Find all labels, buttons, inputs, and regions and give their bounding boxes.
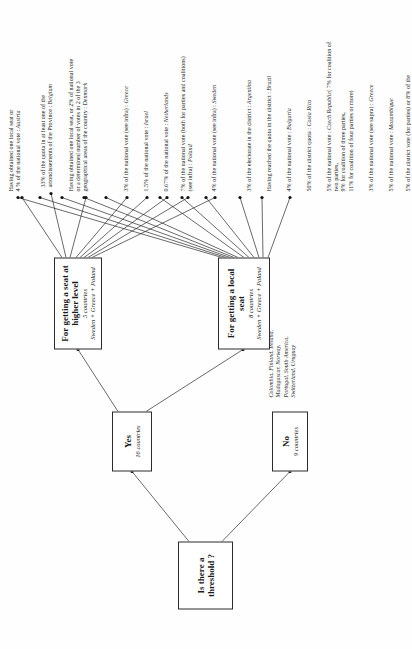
leaf-greece-higher: 3% of the national vote (see infra) : Gr… [123,41,130,191]
leaf-belgium: 33% of the quota in at least one of the … [40,37,54,187]
leaf-argentina: 3% of the electorate in the district : A… [246,41,253,191]
category-higher-count: 5 countries [81,288,89,317]
branch-yes-label: Yes [123,435,133,448]
country-sweden-higher: Sweden [211,84,217,103]
category-box-local-seat[interactable]: For getting a local seat 8 countries Swe… [218,257,270,349]
country-austria: Austria [15,110,21,128]
root-question-box[interactable]: Is there a threshold ? [178,541,233,609]
leaf-israel: 1.5% of the national vote : Israel [143,41,150,191]
leaf-poland-higher: 7% of the national vote (both for partie… [180,41,194,191]
leaf-brazil: Having reached the quota in the district… [266,41,273,191]
leaf-sweden-higher: 4% of the national vote (see infra) : Sw… [211,41,218,191]
root-question-label: Is there a threshold ? [196,545,216,605]
country-netherlands: Netherlands [163,92,169,122]
branch-no-count: 9 countries [292,426,300,455]
leaf-mozambique: 5% of the national vote : Mozambique [388,41,395,191]
country-greece-local: Greece [368,84,374,101]
leaf-costa-rica: 50% of the district quota : Costa Rica [306,41,313,191]
country-brazil: Brazil [266,75,272,90]
country-poland-higher: Poland [187,144,193,162]
country-argentina: Argentina [246,80,252,104]
branch-yes-count: 16 countries [134,425,142,457]
category-box-higher-level[interactable]: For getting a seat at higher level 5 cou… [54,257,102,349]
leaf-denmark: Having obtained one local seat, or 2% of… [68,41,90,191]
category-local-extra: Sweden + Greece + Poland [255,267,263,339]
country-bulgaria: Bulgaria [286,108,292,130]
leaf-bulgaria: 4% of the national vote : Bulgaria [286,41,293,191]
country-czech-republic: Czech Republic [326,91,332,129]
leaf-czech-republic: 5% of the national vote : Czech Republic… [326,41,355,191]
branch-box-no[interactable]: No 9 countries [272,411,308,471]
category-higher-extra: Sweden + Greece + Poland [89,267,97,339]
leaf-greece-local: 3% of the national vote (see supra) : Gr… [368,41,375,191]
leaf-netherlands: 0.67% of the national vote : Netherlands [163,41,170,191]
diagram-canvas: Is there a threshold ? Yes 16 countries … [0,0,412,649]
category-local-count: 8 countries [247,288,255,317]
category-higher-title: For getting a seat at higher level [60,261,80,345]
leaf-austria: Having obtained one local seat or 4 % of… [8,41,22,191]
branch-box-yes[interactable]: Yes 16 countries [112,411,152,471]
country-belgium: Belgium [47,84,53,104]
country-greece-higher: Greece [123,86,129,103]
no-countries-list: Colombia, Finland, Ireland, Madagascar, … [268,287,298,397]
country-costa-rica: Costa Rica [306,99,312,126]
country-israel: Israel [143,111,149,125]
category-local-title: For getting a local seat [226,261,246,345]
country-mozambique: Mozambique [388,98,394,129]
branch-no-label: No [281,436,291,447]
leaf-poland-local: 5% of the district vote (for parties) or… [405,41,412,191]
country-denmark: Denmark [82,82,88,105]
